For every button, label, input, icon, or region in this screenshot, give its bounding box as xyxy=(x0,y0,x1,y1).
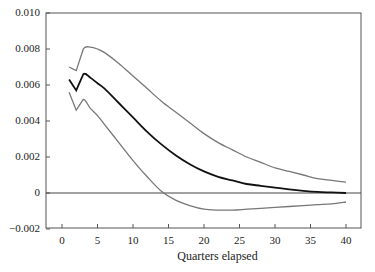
y-tick-label: −0.002 xyxy=(0,222,40,234)
x-tick-label: 35 xyxy=(301,234,321,246)
x-tick-label: 15 xyxy=(159,234,179,246)
x-tick-label: 25 xyxy=(230,234,250,246)
x-tick-label: 5 xyxy=(88,234,108,246)
y-tick-label: 0 xyxy=(0,186,40,198)
x-axis-ticks xyxy=(62,224,346,228)
series-lines xyxy=(69,47,346,211)
x-tick-label: 40 xyxy=(336,234,356,246)
y-tick-label: 0.010 xyxy=(0,6,40,18)
x-axis-title: Quarters elapsed xyxy=(0,249,375,264)
plot-frame xyxy=(46,13,361,228)
y-axis-ticks xyxy=(46,13,50,229)
y-tick-label: 0.002 xyxy=(0,150,40,162)
x-tick-label: 30 xyxy=(265,234,285,246)
x-tick-label: 10 xyxy=(123,234,143,246)
y-tick-label: 0.008 xyxy=(0,42,40,54)
y-tick-label: 0.006 xyxy=(0,78,40,90)
x-tick-label: 20 xyxy=(194,234,214,246)
impulse-response-chart xyxy=(0,0,375,272)
upper-band-line xyxy=(69,47,346,183)
y-tick-label: 0.004 xyxy=(0,114,40,126)
x-tick-label: 0 xyxy=(52,234,72,246)
